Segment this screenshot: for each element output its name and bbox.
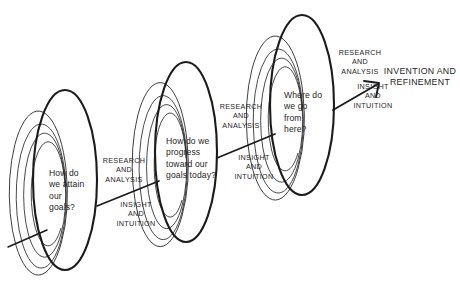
node-1-question: How do we attain our goals?: [49, 168, 103, 213]
connector-2-lower-label: INSIGHT AND INTUITION: [226, 153, 282, 181]
connector-3-upper-label: RESEARCH AND ANALYSIS: [332, 48, 388, 76]
connector-1-lower-label: INSIGHT AND INTUITION: [108, 200, 164, 228]
outcome-label: INVENTION AND REFINEMENT: [382, 66, 458, 89]
connector-2-upper-label: RESEARCH AND ANALYSIS: [213, 102, 269, 130]
connector-1-upper-label: RESEARCH AND ANALYSIS: [96, 156, 152, 184]
node-3-question: Where do we go from here?: [284, 90, 330, 135]
diagram-artwork: [0, 0, 460, 288]
diagram-canvas: How do we attain our goals? How do we pr…: [0, 0, 460, 288]
node-2-question: How do we progress toward our goals toda…: [166, 136, 224, 181]
